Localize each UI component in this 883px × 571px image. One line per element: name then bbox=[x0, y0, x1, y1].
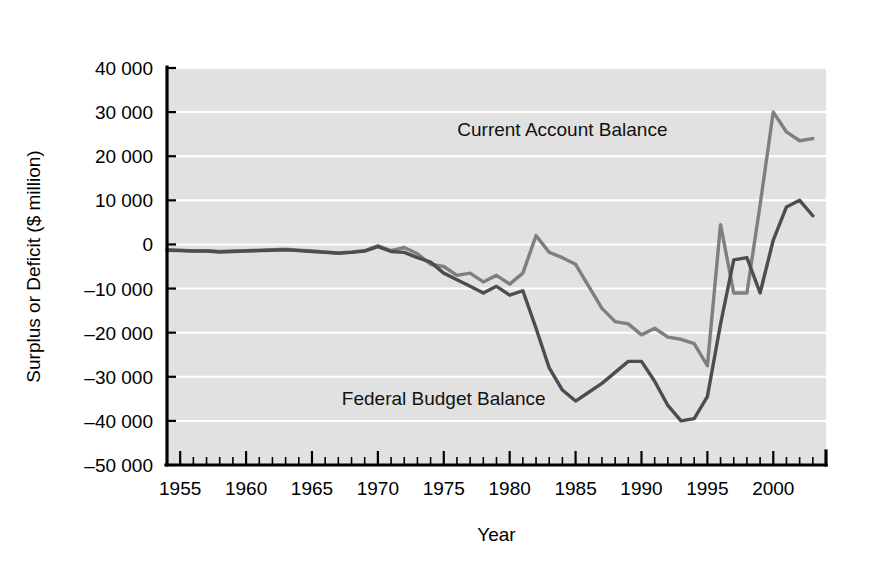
y-tick-label: 10 000 bbox=[95, 190, 153, 211]
series-label-1: Current Account Balance bbox=[457, 119, 667, 140]
x-tick-label: 2000 bbox=[752, 478, 794, 499]
x-tick-label: 1955 bbox=[159, 478, 201, 499]
chart-container: 40 00030 00020 00010 0000–10 000–20 000–… bbox=[0, 0, 883, 571]
y-tick-label: –20 000 bbox=[84, 323, 153, 344]
y-tick-label: –40 000 bbox=[84, 411, 153, 432]
line-chart: 40 00030 00020 00010 0000–10 000–20 000–… bbox=[0, 0, 883, 571]
y-tick-label: –50 000 bbox=[84, 455, 153, 476]
x-tick-label: 1975 bbox=[423, 478, 465, 499]
y-axis-title: Surplus or Deficit ($ million) bbox=[23, 150, 44, 382]
x-tick-label: 1995 bbox=[686, 478, 728, 499]
y-tick-label: –30 000 bbox=[84, 367, 153, 388]
x-tick-label: 1965 bbox=[291, 478, 333, 499]
x-tick-label: 1985 bbox=[554, 478, 596, 499]
series-label-2: Federal Budget Balance bbox=[342, 388, 546, 409]
x-tick-label: 1990 bbox=[620, 478, 662, 499]
y-tick-label: 0 bbox=[142, 234, 153, 255]
y-tick-label: 30 000 bbox=[95, 102, 153, 123]
y-tick-label: –10 000 bbox=[84, 279, 153, 300]
x-tick-label: 1980 bbox=[489, 478, 531, 499]
x-tick-label: 1960 bbox=[225, 478, 267, 499]
x-axis-title: Year bbox=[477, 524, 516, 545]
x-tick-label: 1970 bbox=[357, 478, 399, 499]
y-tick-label: 40 000 bbox=[95, 58, 153, 79]
y-tick-label: 20 000 bbox=[95, 146, 153, 167]
